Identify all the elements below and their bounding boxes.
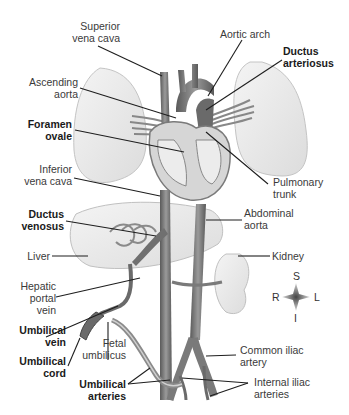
right-lung (74, 68, 147, 183)
label-hepatic-portal-vein: Hepatic portal vein (4, 280, 56, 316)
compass-inferior: I (294, 312, 297, 324)
compass-right: R (272, 291, 280, 303)
label-aortic-arch: Aortic arch (210, 28, 280, 40)
label-pulmonary-trunk: Pulmonary trunk (273, 176, 323, 200)
label-ductus-venosus: Ductus venosus (4, 208, 64, 232)
label-liver: Liver (4, 250, 50, 262)
left-lung (234, 62, 307, 176)
label-inferior-vena-cava: Inferior vena cava (4, 163, 72, 187)
label-ductus-arteriosus: Ductus arteriosus (283, 45, 334, 69)
label-ascending-aorta: Ascending aorta (6, 76, 78, 100)
label-umbilical-cord: Umbilical cord (4, 355, 66, 379)
label-foramen-ovale: Foramen ovale (4, 118, 72, 142)
umbilical-cord (80, 312, 104, 340)
compass-left: L (314, 291, 320, 303)
label-common-iliac-artery: Common iliac artery (240, 344, 304, 368)
label-abdominal-aorta: Abdominal aorta (244, 207, 294, 231)
internal-iliac-arteries (180, 366, 208, 400)
label-umbilical-arteries: Umbilical arteries (68, 378, 126, 402)
label-fetal-umbilicus: Fetal umbilicus (74, 337, 126, 361)
label-kidney: Kidney (272, 250, 304, 262)
label-internal-iliac-arteries: Internal iliac arteries (254, 376, 310, 400)
label-superior-vena-cava: Superior vena cava (50, 20, 120, 44)
inferior-vena-cava (160, 190, 172, 400)
compass-rose (282, 283, 310, 311)
label-umbilical-vein: Umbilical vein (4, 324, 66, 348)
compass-superior: S (293, 270, 300, 282)
